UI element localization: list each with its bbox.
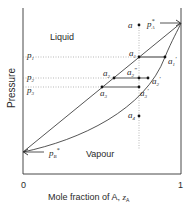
a1-label: a1 (129, 48, 136, 59)
a2-prime-label: a2′ (152, 75, 161, 87)
point-a1 (138, 56, 141, 59)
p2-label: p2 (26, 72, 35, 83)
a4-label: a4 (128, 110, 136, 121)
x-axis-label: Mole fraction of A, zA (48, 192, 130, 203)
point-a1-prime (164, 56, 167, 59)
p1-label: p1 (26, 50, 34, 61)
a2-doubleprime-label: a2″ (127, 66, 137, 78)
pA-star-label: pA* (146, 18, 156, 30)
x-tick-1: 1 (178, 180, 183, 190)
phase-diagram: Liquid Vapour p1 p2 p3 pA* pB* a a1 a1′ … (0, 0, 195, 204)
liquid-region-label: Liquid (50, 32, 74, 42)
y-axis-label: Pressure (6, 68, 17, 108)
a1-prime-label: a1′ (168, 55, 177, 67)
a-label: a (128, 20, 133, 30)
x-tick-0: 0 (21, 180, 26, 190)
point-a4 (138, 115, 141, 118)
point-a2-doubleprime (138, 77, 141, 80)
vapour-region-label: Vapour (86, 149, 114, 159)
pB-star-label: pB* (48, 147, 60, 159)
a3-label: a3 (100, 88, 108, 99)
a3-prime-label: a3′ (140, 87, 149, 99)
point-a2 (113, 77, 116, 80)
point-a (138, 24, 141, 27)
point-a2-prime (147, 77, 150, 80)
a2-label: a2 (103, 68, 111, 79)
p3-label: p3 (26, 85, 35, 96)
